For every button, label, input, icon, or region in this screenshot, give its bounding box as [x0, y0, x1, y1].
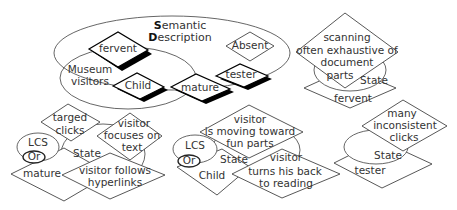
action-focuses-text-line1: visitor: [118, 117, 151, 129]
action-turns-back-line1: visitor: [270, 151, 303, 163]
state-label: State: [220, 153, 248, 165]
action-inconsistent-clicks-line2: inconsistent: [373, 119, 437, 131]
action-focuses-text-line2: focuses on: [104, 129, 160, 141]
action-focuses-text-line3: text: [122, 141, 143, 153]
node-absent[interactable]: Absent: [226, 32, 274, 61]
semantic-description-group: Semantic Description Museum visitors fer…: [54, 16, 290, 109]
museum-visitors-label-line2: visitors: [71, 75, 109, 87]
or-label: Or: [28, 150, 41, 162]
panel-scanning: fervent scanning often exhaustive of doc…: [296, 13, 398, 108]
museum-visitors-label-line1: Museum: [68, 63, 113, 75]
action-inconsistent-clicks-line1: many: [387, 107, 417, 119]
panel-child: Child LCS Or visitor is moving toward fu…: [173, 105, 340, 198]
panel-tester: tester many inconsistent clicks State: [334, 100, 447, 188]
action-follows-hyperlinks-line1: visitor follows: [79, 164, 151, 176]
profile-tester-label: tester: [355, 164, 387, 176]
action-turns-back-line3: to reading: [259, 177, 313, 189]
action-moving-fun-parts-line2: is moving toward: [205, 125, 296, 137]
action-targed-clicks-line2: clicks: [56, 124, 85, 136]
node-absent-label: Absent: [232, 39, 269, 51]
node-tester-label: tester: [226, 68, 258, 80]
semantic-description-diagram: Semantic Description Museum visitors fer…: [0, 0, 457, 210]
state-label: State: [73, 147, 101, 159]
action-follows-hyperlinks-line2: hyperlinks: [88, 176, 142, 188]
action-scanning-line3: document: [321, 56, 374, 68]
state-label: State: [374, 149, 402, 161]
panel-mature: mature LCS Or State targed clicks visito…: [11, 104, 165, 201]
state-label: State: [360, 74, 388, 86]
or-label: Or: [183, 154, 196, 166]
node-fervent-label: fervent: [99, 42, 137, 54]
node-child[interactable]: Child: [113, 73, 168, 102]
action-moving-fun-parts-line1: visitor: [234, 113, 267, 125]
action-turns-back-line2: turns his back: [248, 165, 323, 177]
action-targed-clicks-line1: targed: [53, 111, 87, 123]
semantic-title-line2: Description: [148, 31, 211, 44]
node-mature-label: mature: [181, 81, 219, 93]
action-scanning-line4: parts: [326, 69, 353, 81]
action-inconsistent-clicks-line3: clicks: [390, 131, 419, 143]
node-child-label: Child: [125, 79, 152, 91]
action-scanning-line1: scanning: [323, 31, 370, 43]
action-moving-fun-parts-line3: fun parts: [226, 137, 273, 149]
profile-fervent-label: fervent: [334, 92, 372, 104]
action-scanning-line2: often exhaustive of: [296, 44, 398, 56]
profile-child-label: Child: [199, 169, 226, 181]
lcs-label: LCS: [185, 139, 205, 151]
profile-mature-label: mature: [23, 167, 61, 179]
lcs-label: LCS: [28, 136, 48, 148]
